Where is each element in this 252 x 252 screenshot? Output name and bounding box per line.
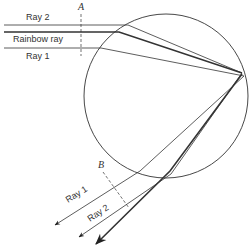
wavefront-b-label: B [98,159,104,170]
ray-2-incoming-label: Ray 2 [26,12,50,22]
ray-1-outgoing-label: Ray 1 [64,184,89,205]
outgoing-rays [55,73,244,244]
ray-1-incoming-label: Ray 1 [26,51,50,61]
wavefront-b-line [103,172,129,208]
water-droplet [84,14,248,178]
rainbow-ray-label: Rainbow ray [13,34,64,44]
rainbow-ray-diagram: A Ray 2 Rainbow ray Ray 1 B Ray 1 Ray 2 [0,0,252,252]
ray-1-outgoing [55,76,244,225]
ray-2-outgoing-label: Ray 2 [86,202,111,223]
rainbow-ray-outgoing [96,74,242,244]
wavefront-a-label: A [77,1,85,12]
